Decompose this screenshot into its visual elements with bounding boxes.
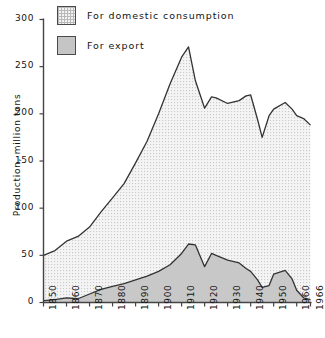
x-tick-label: 1900 xyxy=(163,284,173,309)
x-tick-label: 1966 xyxy=(315,284,325,309)
x-tick-label: 1910 xyxy=(186,284,196,309)
x-tick-label: 1890 xyxy=(140,284,150,309)
x-tick-label: 1860 xyxy=(71,284,81,309)
y-tick-label: 50 xyxy=(4,249,34,259)
legend-swatch-domestic-icon xyxy=(57,6,76,25)
x-tick-label: 1920 xyxy=(209,284,219,309)
x-tick-label: 1960 xyxy=(301,284,311,309)
legend-swatch-export-icon xyxy=(57,36,76,55)
legend-label-domestic: For domestic consumption xyxy=(87,10,234,21)
chart-legend: For domestic consumption For export xyxy=(57,4,234,64)
y-tick-label: 100 xyxy=(4,202,34,212)
x-tick-label: 1870 xyxy=(94,284,104,309)
legend-label-export: For export xyxy=(87,40,145,51)
x-tick-label: 1950 xyxy=(278,284,288,309)
x-tick-label: 1930 xyxy=(232,284,242,309)
y-tick-label: 300 xyxy=(4,13,34,23)
x-tick-label: 1850 xyxy=(48,284,58,309)
x-tick-label: 1880 xyxy=(117,284,127,309)
y-tick-label: 0 xyxy=(4,296,34,306)
x-tick-label: 1940 xyxy=(255,284,265,309)
y-tick-label: 250 xyxy=(4,60,34,70)
series-layer xyxy=(44,47,311,303)
y-tick-label: 200 xyxy=(4,107,34,117)
legend-item-export: For export xyxy=(57,34,234,56)
y-tick-label: 150 xyxy=(4,155,34,165)
legend-item-domestic: For domestic consumption xyxy=(57,4,234,26)
